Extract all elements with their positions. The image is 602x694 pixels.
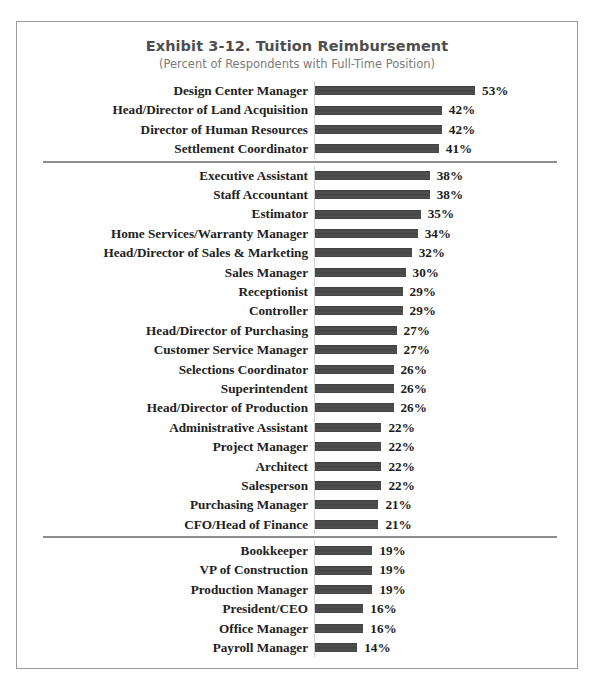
bar-track: 14% [314, 638, 577, 657]
chart-row: Payroll Manager14% [17, 638, 577, 657]
group-divider [43, 536, 557, 538]
bar [315, 144, 439, 153]
bar-value-label: 22% [388, 421, 414, 434]
bar-category-label: Staff Accountant [17, 188, 314, 201]
bar-category-label: Executive Assistant [17, 169, 314, 182]
chart-row: VP of Construction19% [17, 560, 577, 579]
bar [315, 365, 394, 374]
chart-row: Receptionist29% [17, 282, 577, 301]
bar-category-label: President/CEO [17, 602, 314, 615]
bar [315, 248, 412, 257]
chart-row: Head/Director of Production26% [17, 398, 577, 417]
bar-value-label: 22% [388, 440, 414, 453]
bar-track: 26% [314, 379, 577, 398]
title-block: Exhibit 3-12. Tuition Reimbursement (Per… [17, 22, 577, 71]
bar-category-label: Sales Manager [17, 266, 314, 279]
bar [315, 306, 403, 315]
bar-track: 19% [314, 580, 577, 599]
bar [315, 604, 363, 613]
bar-category-label: Project Manager [17, 440, 314, 453]
bar-category-label: Home Services/Warranty Manager [17, 227, 314, 240]
chart-row: Superintendent26% [17, 379, 577, 398]
bar-track: 42% [314, 120, 577, 139]
bar-track: 53% [314, 81, 577, 100]
chart-row: Estimator35% [17, 204, 577, 223]
bar-category-label: Head/Director of Sales & Marketing [17, 246, 314, 259]
bar-track: 38% [314, 166, 577, 185]
bar [315, 462, 381, 471]
bar-track: 27% [314, 321, 577, 340]
bar-category-label: Estimator [17, 207, 314, 220]
bar [315, 546, 372, 555]
bar-value-label: 29% [410, 304, 436, 317]
bar-track: 30% [314, 263, 577, 282]
bar-value-label: 26% [401, 401, 427, 414]
bar-value-label: 30% [413, 266, 439, 279]
bar-category-label: Production Manager [17, 583, 314, 596]
chart-row: Office Manager16% [17, 619, 577, 638]
chart-row: President/CEO16% [17, 599, 577, 618]
bar-value-label: 27% [404, 324, 430, 337]
bar-category-label: Director of Human Resources [17, 123, 314, 136]
bar-track: 42% [314, 100, 577, 119]
bar [315, 423, 381, 432]
bar-category-label: Superintendent [17, 382, 314, 395]
chart-row: Architect22% [17, 456, 577, 475]
group-divider [43, 161, 557, 163]
chart-subtitle: (Percent of Respondents with Full-Time P… [17, 57, 577, 71]
bar [315, 384, 394, 393]
bar-value-label: 22% [388, 479, 414, 492]
bar-category-label: Head/Director of Production [17, 401, 314, 414]
bar-category-label: Salesperson [17, 479, 314, 492]
bar-value-label: 35% [428, 207, 454, 220]
bar-value-label: 19% [379, 563, 405, 576]
bar-track: 19% [314, 560, 577, 579]
chart-row: Head/Director of Land Acquisition42% [17, 100, 577, 119]
bar-value-label: 29% [410, 285, 436, 298]
bar [315, 190, 430, 199]
bar-category-label: Controller [17, 304, 314, 317]
page-title: Exhibit 3-12. Tuition Reimbursement [17, 38, 577, 54]
bar [315, 326, 397, 335]
chart-row: Salesperson22% [17, 476, 577, 495]
bar-track: 32% [314, 243, 577, 262]
bar-value-label: 42% [449, 103, 475, 116]
bar [315, 585, 372, 594]
bar-track: 21% [314, 515, 577, 534]
bar-track: 16% [314, 619, 577, 638]
bar-value-label: 14% [364, 641, 390, 654]
bar-category-label: Head/Director of Purchasing [17, 324, 314, 337]
bar-category-label: Customer Service Manager [17, 343, 314, 356]
bar-category-label: Design Center Manager [17, 84, 314, 97]
bar-track: 22% [314, 418, 577, 437]
bar-category-label: Office Manager [17, 622, 314, 635]
bar-track: 22% [314, 476, 577, 495]
chart-row: Selections Coordinator26% [17, 359, 577, 378]
bar-category-label: Settlement Coordinator [17, 142, 314, 155]
chart-row: Head/Director of Sales & Marketing32% [17, 243, 577, 262]
chart-row: Bookkeeper19% [17, 541, 577, 560]
bar-track: 29% [314, 282, 577, 301]
bar-track: 27% [314, 340, 577, 359]
bar-track: 38% [314, 185, 577, 204]
bar [315, 520, 378, 529]
chart-row: Staff Accountant38% [17, 185, 577, 204]
bar-value-label: 27% [404, 343, 430, 356]
chart-row: Controller29% [17, 301, 577, 320]
chart-row: Sales Manager30% [17, 263, 577, 282]
bar-chart-plot-area: Design Center Manager53%Head/Director of… [17, 81, 577, 657]
chart-row: Purchasing Manager21% [17, 495, 577, 514]
bar-value-label: 38% [437, 169, 463, 182]
chart-row: Production Manager19% [17, 580, 577, 599]
bar [315, 403, 394, 412]
bar [315, 624, 363, 633]
bar-category-label: Receptionist [17, 285, 314, 298]
bar-value-label: 53% [482, 84, 508, 97]
bar-track: 29% [314, 301, 577, 320]
bar [315, 500, 378, 509]
bar [315, 287, 403, 296]
bar-value-label: 41% [446, 142, 472, 155]
bar-track: 41% [314, 139, 577, 158]
bar-track: 21% [314, 495, 577, 514]
bar-category-label: Payroll Manager [17, 641, 314, 654]
